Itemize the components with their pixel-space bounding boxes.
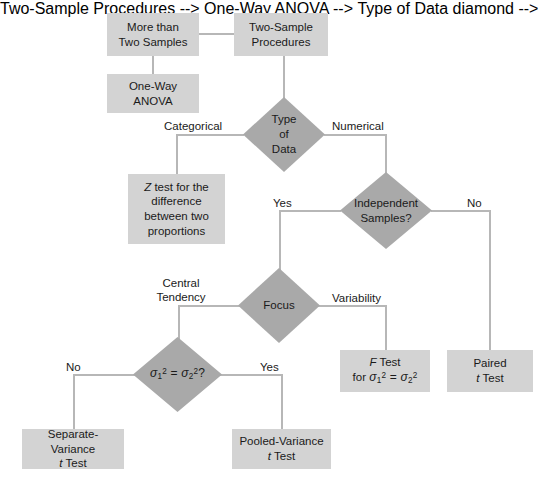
decision-variance-equal-label: σ12 = σ22?: [133, 337, 222, 412]
node-two-sample-procedures-line1: Two-Sample: [249, 20, 313, 35]
node-separate-variance-word: Test: [63, 457, 87, 469]
node-more-than-two-samples[interactable]: More than Two Samples: [107, 13, 199, 56]
variance-equal-formula: σ12 = σ22?: [150, 366, 205, 383]
independent-samples-line1: Independent: [354, 196, 418, 211]
edge-label-central-tendency-line2: Tendency: [146, 290, 216, 304]
node-one-way-anova-line1: One-Way: [129, 79, 177, 94]
connector-samples-to-procedures: [198, 33, 234, 35]
connector-no-down: [489, 210, 491, 350]
connector-samples-to-anova: [152, 55, 154, 75]
edge-label-variance-yes: Yes: [259, 360, 280, 374]
f-test-formula: σ12 = σ22: [369, 370, 417, 384]
node-f-test[interactable]: F Test for σ12 = σ22: [340, 350, 430, 392]
connector-focus-central: [178, 305, 240, 307]
edge-label-variance-no: No: [65, 360, 82, 374]
node-one-way-anova[interactable]: One-Way ANOVA: [107, 74, 199, 113]
edge-label-numerical: Numerical: [331, 119, 385, 133]
decision-type-of-data[interactable]: Type of Data: [243, 97, 325, 172]
connector-variability-down: [385, 305, 387, 350]
node-paired-t-test-line1: Paired: [473, 356, 506, 371]
node-f-test-word-test: Test: [376, 356, 400, 368]
node-two-sample-procedures[interactable]: Two-Sample Procedures: [234, 13, 328, 56]
connector-variance-yes-down: [281, 374, 283, 429]
node-z-test-line1: Z test for the: [144, 180, 209, 195]
node-f-test-line2: for σ12 = σ22: [353, 370, 418, 387]
decision-focus[interactable]: Focus: [238, 268, 320, 343]
decision-independent-samples-label: Independent Samples?: [340, 172, 432, 249]
node-z-test-line2: difference: [144, 194, 209, 209]
focus-line1: Focus: [263, 298, 294, 313]
node-f-test-line1: F Test: [353, 355, 418, 370]
node-pooled-variance-t-test[interactable]: Pooled-Variance t Test: [232, 429, 331, 469]
edge-label-central-tendency-line1: Central: [146, 276, 216, 290]
node-separate-variance-line1: Separate-Variance: [26, 427, 120, 456]
decision-focus-label: Focus: [238, 268, 320, 343]
connector-variance-no: [73, 374, 135, 376]
node-z-test-line1-rest: test for the: [151, 181, 209, 193]
edge-label-independent-no: No: [466, 196, 483, 210]
type-of-data-line3: Data: [272, 142, 297, 157]
node-more-than-two-samples-line2: Two Samples: [118, 35, 187, 50]
node-z-test-line4: proportions: [144, 224, 209, 239]
edge-label-central-tendency: Central Tendency: [145, 276, 217, 305]
node-paired-t-test[interactable]: Paired t Test: [447, 350, 533, 392]
connector-categorical-down: [176, 134, 178, 174]
node-one-way-anova-line2: ANOVA: [129, 94, 177, 109]
connector-procedures-to-typeofdata: [283, 55, 285, 100]
node-pooled-variance-word: Test: [271, 450, 295, 462]
type-of-data-line2: of: [272, 127, 297, 142]
connector-typeofdata-numerical: [324, 134, 386, 136]
node-pooled-variance-line2: t Test: [239, 449, 323, 464]
node-two-sample-procedures-line2: Procedures: [249, 35, 313, 50]
connector-typeofdata-categorical: [176, 134, 244, 136]
type-of-data-line1: Type: [272, 112, 297, 127]
edge-label-categorical: Categorical: [163, 119, 223, 133]
node-separate-variance-line2: t Test: [26, 456, 120, 471]
decision-type-of-data-label: Type of Data: [243, 97, 325, 172]
connector-numerical-down: [385, 134, 387, 174]
connector-variance-no-down: [73, 374, 75, 429]
node-more-than-two-samples-line1: More than: [118, 20, 187, 35]
node-separate-variance-t-test[interactable]: Separate-Variance t Test: [22, 429, 124, 469]
independent-samples-line2: Samples?: [354, 211, 418, 226]
node-f-test-for: for: [353, 371, 366, 383]
node-z-test-line3: between two: [144, 209, 209, 224]
node-paired-t-test-word: Test: [480, 372, 504, 384]
node-paired-t-test-line2: t Test: [473, 371, 506, 386]
flowchart-canvas: Two-Sample Procedures --> One-Way ANOVA …: [0, 0, 547, 492]
edge-label-independent-yes: Yes: [272, 196, 293, 210]
decision-variance-equal[interactable]: σ12 = σ22?: [133, 337, 222, 412]
edge-label-variability: Variability: [331, 291, 382, 305]
node-pooled-variance-line1: Pooled-Variance: [239, 434, 323, 449]
decision-independent-samples[interactable]: Independent Samples?: [340, 172, 432, 249]
node-z-test[interactable]: Z test for the difference between two pr…: [128, 174, 225, 244]
